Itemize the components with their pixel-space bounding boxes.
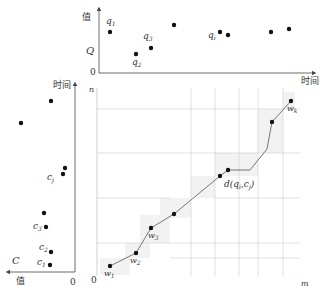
path-point: [149, 226, 153, 230]
data-point: [19, 121, 23, 125]
data-point: [226, 33, 230, 37]
label-q3: q3: [143, 32, 153, 42]
path-point: [270, 120, 274, 124]
label-w2: w2: [130, 257, 141, 266]
label-wk: wk: [287, 105, 298, 114]
dtw-diagram: [0, 0, 329, 300]
data-point: [63, 166, 67, 170]
data-point: [61, 172, 65, 176]
shaded-cells: [100, 92, 295, 275]
data-point: [172, 23, 176, 27]
left-origin-label: 0: [70, 278, 76, 287]
path-point: [108, 264, 112, 268]
data-point: [44, 225, 48, 229]
main-origin-label: 0: [91, 276, 97, 285]
label-w1: w1: [104, 270, 115, 279]
data-point: [42, 211, 46, 215]
data-point: [269, 30, 273, 34]
label-w3: w3: [148, 232, 159, 241]
left-x-axis-label: 值: [16, 277, 25, 286]
data-point: [149, 46, 153, 50]
data-point: [48, 263, 52, 267]
label-q1: q1: [106, 17, 116, 27]
path-point: [134, 251, 138, 255]
left-c-label: C: [12, 256, 20, 266]
data-point: [218, 30, 222, 34]
label-cj: cj: [47, 173, 54, 183]
top-series-q: [108, 23, 291, 56]
main-x-axis-label: m: [301, 280, 309, 288]
data-point: [49, 250, 53, 254]
label-qi: qi: [208, 31, 216, 41]
path-point: [289, 99, 293, 103]
data-point: [108, 30, 112, 34]
top-y-axis-label: 值: [82, 13, 91, 22]
main-y-axis-label: n: [89, 86, 94, 94]
path-point: [226, 168, 230, 172]
label-q2: q2: [132, 58, 142, 68]
data-point: [134, 52, 138, 56]
path-point: [218, 174, 222, 178]
top-origin-label: 0: [90, 68, 96, 77]
top-q-tick-label: Q: [86, 46, 94, 56]
distance-label: d(qi,cj): [224, 180, 254, 190]
data-point: [49, 99, 53, 103]
left-y-axis-label: 时间: [53, 81, 71, 90]
label-c1: c1: [37, 258, 46, 268]
path-point: [172, 212, 176, 216]
label-c2: c2: [39, 243, 48, 253]
top-x-axis-label: 时间: [301, 77, 319, 86]
warping-matrix: [97, 88, 300, 276]
data-point: [287, 27, 291, 31]
label-c3: c3: [33, 222, 42, 232]
